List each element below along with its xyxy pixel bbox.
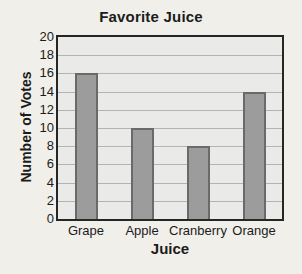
x-tick-label: Apple (97, 223, 187, 238)
bar-chart-figure: Favorite Juice Number of Votes 201816141… (0, 0, 302, 274)
y-tick-label: 18 (4, 48, 54, 62)
plot-area (56, 35, 284, 221)
y-tick-label: 0 (4, 212, 54, 226)
bar-orange (243, 92, 266, 219)
chart-title: Favorite Juice (0, 8, 302, 25)
bar-apple (131, 128, 154, 219)
gridline (58, 55, 282, 56)
bar-grape (75, 73, 98, 219)
y-tick-label: 20 (4, 30, 54, 44)
x-tick-label: Grape (41, 223, 131, 238)
x-axis-title: Juice (56, 240, 284, 257)
x-tick-label: Cranberry (153, 223, 243, 238)
x-tick-label: Orange (209, 223, 299, 238)
y-tick-label: 2 (4, 194, 54, 208)
y-axis-title: Number of Votes (18, 72, 34, 183)
bar-cranberry (187, 146, 210, 219)
